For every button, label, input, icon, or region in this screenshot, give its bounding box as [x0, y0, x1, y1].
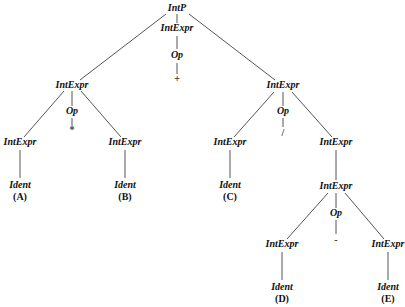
node-leaf-d: (D)	[275, 293, 289, 305]
node-left-times-symbol: *	[70, 124, 75, 135]
edge-left-a	[24, 91, 64, 137]
tree-nodes: IntP IntExpr Op + IntExpr Op * IntExpr I…	[3, 2, 405, 305]
node-left-op: Op	[66, 105, 78, 116]
node-intp-root: IntP	[167, 2, 187, 13]
node-right-rr-intexpr: IntExpr	[319, 180, 353, 191]
node-root-op: Op	[171, 49, 183, 60]
edge-rr-d	[287, 193, 328, 239]
edge-right-r	[292, 92, 332, 137]
node-root-plus-symbol: +	[174, 73, 180, 84]
edge-root-right	[189, 14, 275, 80]
node-right-d-ident: Ident	[270, 281, 294, 292]
node-left-b-ident: Ident	[113, 179, 137, 190]
node-left-a-intexpr: IntExpr	[3, 136, 37, 147]
node-right-rr-minus-symbol: -	[334, 234, 337, 245]
node-right-e-intexpr: IntExpr	[371, 238, 405, 249]
node-left-b-intexpr: IntExpr	[108, 136, 142, 147]
node-right-divide-symbol: /	[281, 127, 285, 138]
node-right-c-intexpr: IntExpr	[213, 136, 247, 147]
node-right-c-ident: Ident	[218, 179, 242, 190]
node-right-intexpr: IntExpr	[266, 79, 300, 90]
node-leaf-c: (C)	[223, 191, 237, 203]
node-root-intexpr: IntExpr	[160, 22, 194, 33]
node-right-r-intexpr: IntExpr	[319, 136, 353, 147]
node-left-intexpr: IntExpr	[55, 79, 89, 90]
node-leaf-e: (E)	[381, 293, 394, 305]
node-leaf-b: (B)	[118, 191, 131, 203]
node-right-op: Op	[277, 105, 289, 116]
node-right-d-intexpr: IntExpr	[265, 238, 299, 249]
node-leaf-a: (A)	[13, 191, 27, 203]
node-left-a-ident: Ident	[8, 179, 32, 190]
edge-left-b	[81, 91, 121, 137]
node-right-e-ident: Ident	[376, 281, 400, 292]
edge-rr-e	[345, 193, 384, 239]
parse-tree-diagram: IntP IntExpr Op + IntExpr Op * IntExpr I…	[0, 0, 405, 307]
edge-right-c	[234, 92, 274, 137]
node-right-rr-op: Op	[330, 207, 342, 218]
edge-root-left	[80, 14, 166, 80]
